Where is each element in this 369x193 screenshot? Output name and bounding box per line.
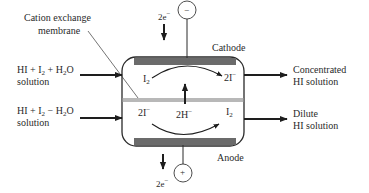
cathode-label: Cathode [212, 42, 245, 54]
outlet-bottom-line2: HI solution [293, 120, 338, 132]
inlet-bottom-solution: solution [17, 117, 49, 129]
inlet-top-solution: solution [17, 76, 49, 88]
outlet-top-line2: HI solution [293, 76, 338, 88]
inlet-bottom-formula: HI + I2 − H2O [17, 105, 74, 117]
cation-exchange-membrane [123, 98, 244, 102]
anode-label: Anode [217, 152, 244, 164]
electron-top-label: 2e− [158, 11, 170, 23]
terminal-top-sign: − [184, 4, 189, 16]
outlet-top-line1: Concentrated [293, 64, 346, 76]
membrane-label-line2: membrane [38, 25, 80, 37]
inlet-top-formula: HI + I2 + H2O [17, 64, 74, 76]
cathode-electrode [134, 58, 236, 65]
electron-bottom-label: 2e− [156, 178, 168, 190]
proton-label: 2H− [176, 109, 192, 121]
anode-electrode [134, 138, 236, 145]
outlet-bottom-line1: Dilute [293, 108, 318, 120]
membrane-label-line1: Cation exchange [24, 12, 91, 24]
cathode-product-label: 2I− [224, 72, 236, 84]
cathode-reactant-label: I2 [143, 73, 150, 85]
anode-product-label: I2 [226, 106, 233, 118]
anode-reactant-label: 2I− [138, 107, 150, 119]
terminal-bottom-sign: + [180, 166, 185, 178]
